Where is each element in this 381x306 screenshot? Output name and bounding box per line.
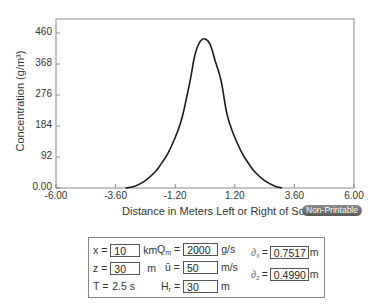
sigma-x-row: ∂x = 0.7517 m [251, 244, 319, 260]
hr-equals: = [174, 280, 180, 292]
hr-label: Hr [161, 280, 171, 293]
sigma-z-equals: = [262, 268, 268, 280]
sigma-z-row: ∂z = 0.4990 m [251, 266, 319, 282]
u-label: ū = [165, 261, 180, 273]
y-tick-label: 368 [22, 57, 52, 68]
non-printable-badge[interactable]: Non-Printable [302, 205, 362, 216]
concentration-chart: 0.0092184276368460 -6.00-3.60-1.201.203.… [0, 0, 381, 225]
plot-frame [56, 19, 354, 188]
x-tick-label: 3.60 [274, 190, 314, 201]
t-value: 2.5 s [112, 280, 135, 292]
t-label: T = [93, 280, 108, 292]
release-height-row: Hr = 30 m [161, 278, 230, 294]
y-axis-label: Concentration (g/m³) [14, 36, 26, 166]
y-tick-label: 276 [22, 88, 52, 99]
sigma-z-label: ∂z [251, 268, 260, 281]
wind-speed-field[interactable]: 50 [183, 261, 218, 274]
x-tick-label: -3.60 [96, 190, 136, 201]
hr-unit: m [221, 280, 230, 292]
emission-rate-field[interactable]: 2000 [183, 243, 218, 256]
z-height-row: z = 30 m [93, 260, 156, 276]
x-tick-label: 6.00 [334, 190, 374, 201]
parameters-panel: x = 10 km z = 30 m T = 2.5 s Qm = 2000 g… [88, 237, 325, 298]
x-label: x = [93, 244, 107, 256]
x-tick-label: 1.20 [215, 190, 255, 201]
time-row: T = 2.5 s [93, 278, 135, 294]
concentration-curve [126, 39, 283, 188]
wind-speed-row: ū = 50 m/s [165, 259, 238, 275]
y-tick-label: 92 [22, 150, 52, 161]
u-unit: m/s [221, 261, 238, 273]
axis-ticks [56, 33, 354, 188]
sigma-x-unit: m [310, 246, 319, 258]
y-tick-label: 184 [22, 119, 52, 130]
sigma-x-field: 0.7517 [270, 246, 309, 259]
y-tick-label: 460 [22, 26, 52, 37]
x-unit: km [143, 244, 157, 256]
x-tick-label: -1.20 [155, 190, 195, 201]
x-axis-label: Distance in Meters Left or Right of Sour… [122, 205, 326, 217]
sigma-z-unit: m [310, 268, 319, 280]
x-tick-label: -6.00 [36, 190, 76, 201]
x-distance-field[interactable]: 10 [110, 244, 140, 257]
qm-equals: = [174, 243, 180, 255]
x-distance-row: x = 10 km [93, 242, 157, 258]
emission-rate-row: Qm = 2000 g/s [157, 241, 235, 257]
sigma-x-label: ∂x [251, 246, 260, 259]
z-label: z = [93, 262, 107, 274]
release-height-field[interactable]: 30 [183, 280, 218, 293]
qm-unit: g/s [221, 243, 235, 255]
z-unit: m [147, 262, 156, 274]
z-height-field[interactable]: 30 [110, 262, 140, 275]
qm-label: Qm [157, 243, 171, 256]
sigma-z-field: 0.4990 [270, 268, 309, 281]
sigma-x-equals: = [262, 246, 268, 258]
